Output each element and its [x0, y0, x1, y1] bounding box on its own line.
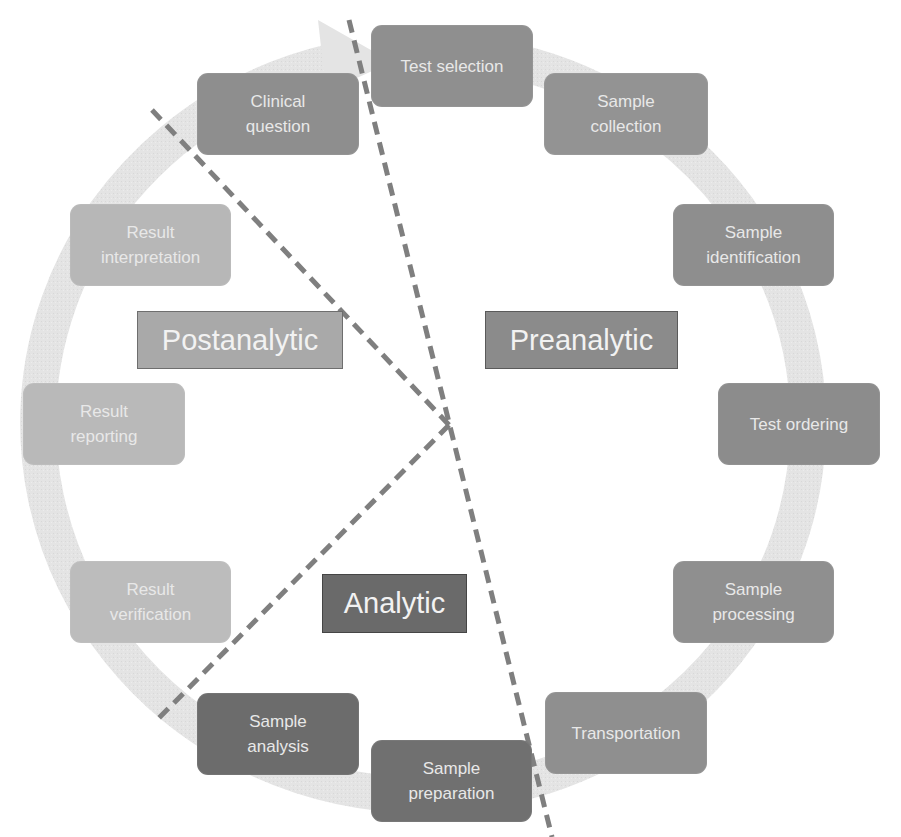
step-result-interpretation: Result interpretation [70, 204, 231, 286]
step-sample-preparation: Sample preparation [371, 740, 532, 822]
step-transportation: Transportation [545, 692, 707, 774]
step-label: Sample processing [712, 577, 794, 627]
step-clinical-question: Clinical question [197, 73, 359, 155]
step-sample-identification: Sample identification [673, 204, 834, 286]
step-label: Sample analysis [247, 709, 308, 759]
step-label: Test ordering [750, 412, 848, 437]
phase-label-preanalytic: Preanalytic [485, 311, 678, 369]
step-test-selection: Test selection [371, 25, 533, 107]
step-label: Transportation [572, 721, 681, 746]
step-sample-analysis: Sample analysis [197, 693, 359, 775]
phase-label-text: Postanalytic [162, 324, 318, 357]
step-label: Result verification [110, 577, 191, 627]
phase-label-postanalytic: Postanalytic [137, 311, 343, 369]
step-sample-processing: Sample processing [673, 561, 834, 643]
phase-label-text: Analytic [344, 587, 446, 620]
phase-label-text: Preanalytic [510, 324, 653, 357]
step-label: Result interpretation [101, 220, 200, 270]
divider-preanalytic [349, 20, 552, 837]
laboratory-testing-cycle-diagram: Test selection Sample collection Sample … [0, 0, 901, 837]
step-test-ordering: Test ordering [718, 383, 880, 465]
step-label: Clinical question [246, 89, 310, 139]
step-result-reporting: Result reporting [23, 383, 185, 465]
step-label: Sample collection [591, 89, 662, 139]
step-label: Sample identification [706, 220, 801, 270]
step-label: Result reporting [70, 399, 137, 449]
phase-label-analytic: Analytic [322, 574, 467, 633]
step-result-verification: Result verification [70, 561, 231, 643]
step-sample-collection: Sample collection [544, 73, 708, 155]
step-label: Test selection [401, 54, 504, 79]
step-label: Sample preparation [408, 756, 494, 806]
